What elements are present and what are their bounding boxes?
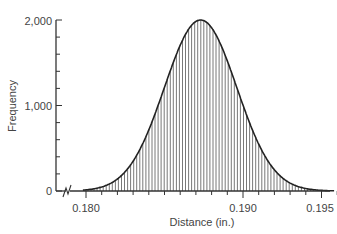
- y-tick-label-1000: 1,000: [24, 100, 52, 112]
- x-axis-ticks: [86, 191, 337, 198]
- histogram-bars: [85, 20, 332, 191]
- distribution-curve: [83, 20, 334, 191]
- x-tick-label-0195: 0.195: [306, 202, 334, 214]
- y-axis-ticks: [56, 20, 62, 191]
- x-tick-label-0190: 0.190: [229, 202, 257, 214]
- x-tick-label-0180: 0.180: [72, 202, 100, 214]
- y-axis-title: Frequency: [6, 80, 18, 132]
- x-axis-title: Distance (in.): [170, 216, 235, 228]
- y-tick-label-2000: 2,000: [24, 15, 52, 27]
- histogram-chart: 2,000 1,000 0 0.180 0.190 0.195 Distance…: [0, 0, 337, 234]
- y-tick-label-0: 0: [46, 185, 52, 197]
